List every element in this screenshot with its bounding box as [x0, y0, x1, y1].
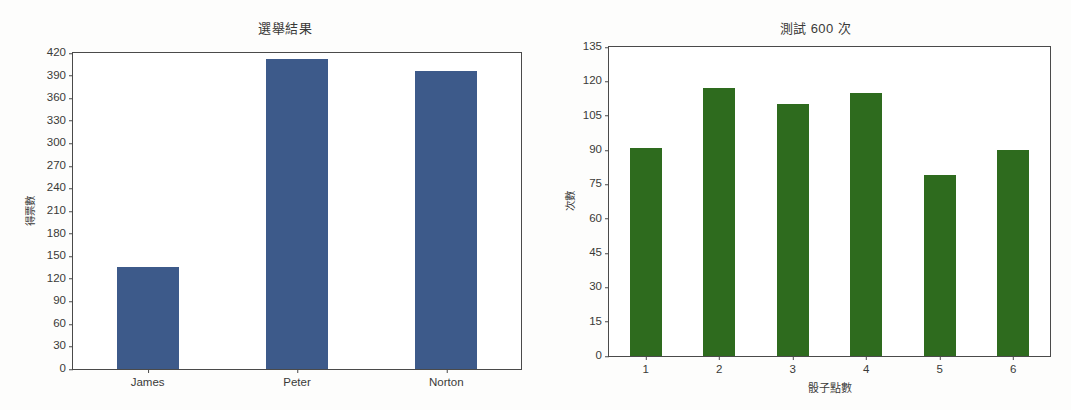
y-axis-tick: 270: [47, 160, 73, 172]
x-axis-tick: 4: [863, 364, 869, 376]
plot-area-election: 0306090120150180210240270300330360390420…: [72, 52, 522, 370]
bar[interactable]: [415, 71, 477, 369]
y-axis-tick: 105: [583, 110, 609, 122]
bar-dice-slot: [977, 47, 1051, 356]
bar-dice-slot: [756, 47, 830, 356]
y-axis-tick: 240: [47, 183, 73, 195]
y-axis-label-dice: 次數: [565, 191, 576, 211]
x-axis-tick: 1: [643, 364, 649, 376]
y-axis-tick: 210: [47, 205, 73, 217]
y-axis-tick: 30: [589, 282, 609, 294]
y-axis-tick: 0: [60, 363, 73, 375]
x-axis-tick: James: [131, 377, 165, 389]
y-axis-tick: 90: [53, 296, 73, 308]
y-axis-tick: 360: [47, 92, 73, 104]
bar[interactable]: [117, 267, 179, 369]
bar-series-election: [73, 53, 521, 369]
bar-election-slot: [222, 53, 371, 369]
y-axis-label-election: 得票數: [25, 196, 36, 226]
y-axis-tick: 60: [589, 213, 609, 225]
bar[interactable]: [630, 148, 662, 356]
bar-dice-slot: [609, 47, 683, 356]
y-axis-tick: 330: [47, 115, 73, 127]
y-axis-tick: 45: [589, 247, 609, 259]
chart-title-election: 選舉結果: [0, 18, 540, 37]
y-axis-tick: 300: [47, 138, 73, 150]
plot-area-dice: 0153045607590105120135123456: [608, 46, 1051, 357]
bar[interactable]: [997, 150, 1029, 356]
y-axis-tick: 15: [589, 316, 609, 328]
bar-dice-slot: [903, 47, 977, 356]
bar[interactable]: [266, 59, 328, 369]
chart-dice-test: 測試 600 次 次數 骰子點數 01530456075901051201351…: [540, 0, 1071, 410]
x-axis-tick: Norton: [429, 377, 464, 389]
figure-page: 選舉結果 得票數 0306090120150180210240270300330…: [0, 0, 1071, 410]
y-axis-tick: 180: [47, 228, 73, 240]
y-axis-tick: 135: [583, 41, 609, 53]
bar-series-dice: [609, 47, 1050, 356]
bar[interactable]: [777, 104, 809, 356]
x-axis-tick: Peter: [283, 377, 311, 389]
x-axis-tick: 6: [1010, 364, 1016, 376]
bar[interactable]: [850, 93, 882, 356]
y-axis-tick: 420: [47, 47, 73, 59]
y-axis-tick: 75: [589, 179, 609, 191]
x-axis-tick: 2: [716, 364, 722, 376]
x-axis-tick: 3: [790, 364, 796, 376]
y-axis-tick: 90: [589, 144, 609, 156]
chart-election-results: 選舉結果 得票數 0306090120150180210240270300330…: [0, 0, 540, 410]
bar[interactable]: [924, 175, 956, 356]
y-axis-tick: 120: [47, 273, 73, 285]
bar-dice-slot: [683, 47, 757, 356]
bar-dice-slot: [830, 47, 904, 356]
y-axis-tick: 0: [596, 350, 609, 362]
y-axis-tick: 30: [53, 341, 73, 353]
y-axis-tick: 60: [53, 318, 73, 330]
bar-election-slot: [372, 53, 521, 369]
y-axis-tick: 150: [47, 250, 73, 262]
x-axis-label-dice: 骰子點數: [808, 383, 852, 394]
bar[interactable]: [703, 88, 735, 356]
x-axis-tick: 5: [937, 364, 943, 376]
chart-title-dice: 測試 600 次: [540, 18, 1071, 37]
bar-election-slot: [73, 53, 222, 369]
y-axis-tick: 120: [583, 76, 609, 88]
y-axis-tick: 390: [47, 70, 73, 82]
